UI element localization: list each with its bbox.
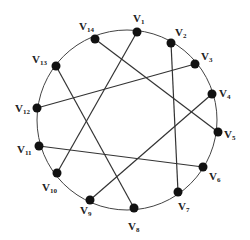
vertex-label-v1: V1 — [133, 12, 145, 26]
edge-v13-v8 — [56, 66, 134, 208]
vertex-v10 — [53, 169, 62, 178]
vertex-label-v12: V12 — [15, 102, 30, 116]
vertex-v4 — [208, 90, 217, 99]
vertex-label-v10: V10 — [42, 181, 57, 195]
edge-v12-v3 — [37, 64, 195, 108]
vertex-v5 — [214, 128, 223, 137]
vertex-v8 — [130, 204, 139, 213]
edge-group — [37, 32, 218, 208]
vertex-v14 — [91, 35, 100, 44]
vertex-v1 — [133, 28, 142, 37]
vertex-label-v9: V9 — [80, 204, 92, 218]
edge-v11-v6 — [39, 146, 203, 167]
vertex-group — [33, 28, 223, 213]
vertex-label-v4: V4 — [219, 87, 231, 101]
outer-circle — [37, 30, 217, 210]
vertex-label-v3: V3 — [201, 50, 213, 64]
vertex-v12 — [33, 104, 42, 113]
vertex-label-v13: V13 — [32, 53, 47, 67]
vertex-v11 — [35, 142, 44, 151]
vertex-label-v8: V8 — [128, 220, 140, 234]
vertex-v2 — [167, 39, 176, 48]
edge-v14-v5 — [95, 39, 218, 132]
vertex-v13 — [52, 62, 61, 71]
circle-graph-diagram: V1V2V3V4V5V6V7V8V9V10V11V12V13V14 — [0, 0, 250, 240]
vertex-label-v6: V6 — [209, 170, 221, 184]
vertex-label-v14: V14 — [79, 20, 94, 34]
vertex-label-v5: V5 — [224, 128, 236, 142]
vertex-v3 — [191, 60, 200, 69]
vertex-v6 — [199, 163, 208, 172]
label-group: V1V2V3V4V5V6V7V8V9V10V11V12V13V14 — [15, 12, 236, 234]
edge-v4-v9 — [90, 94, 212, 200]
edge-v1-v10 — [57, 32, 137, 173]
edge-v2-v7 — [171, 43, 178, 192]
vertex-v7 — [174, 188, 183, 197]
vertex-label-v7: V7 — [178, 200, 190, 214]
vertex-label-v11: V11 — [17, 143, 32, 157]
vertex-label-v2: V2 — [175, 26, 187, 40]
